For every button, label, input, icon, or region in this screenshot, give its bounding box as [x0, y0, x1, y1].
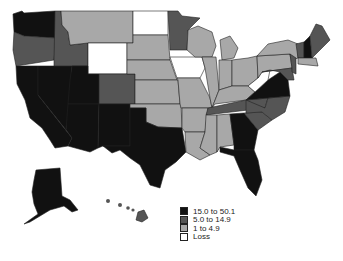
state-AR — [182, 108, 208, 132]
state-MA — [298, 58, 318, 66]
state-IN — [219, 60, 232, 90]
state-ND — [133, 11, 168, 35]
state-WI — [187, 26, 216, 57]
state-SD — [127, 35, 170, 60]
legend-item-high: 15.0 to 50.1 — [180, 207, 235, 216]
state-FL — [220, 147, 262, 196]
state-WY — [88, 43, 127, 74]
legend-swatch-loss — [180, 233, 188, 241]
state-NM — [98, 104, 130, 148]
state-HI — [136, 210, 148, 222]
legend-swatch-high — [180, 207, 188, 215]
legend-item-loss: Loss — [180, 233, 235, 242]
state-MT — [61, 11, 133, 45]
legend-item-low: 1 to 4.9 — [180, 224, 235, 233]
legend-item-mid: 5.0 to 14.9 — [180, 216, 235, 225]
legend-swatch-low — [180, 224, 188, 232]
state-HI-islet — [126, 206, 130, 210]
legend-label-loss: Loss — [193, 232, 210, 241]
state-CO — [99, 74, 135, 104]
state-HI-islet — [131, 208, 134, 211]
map-legend: 15.0 to 50.1 5.0 to 14.9 1 to 4.9 Loss — [180, 207, 235, 241]
us-choropleth-map — [0, 0, 343, 261]
state-ME — [310, 24, 330, 58]
state-MO — [177, 78, 212, 108]
state-AK — [24, 168, 78, 224]
state-AZ — [66, 104, 99, 152]
state-HI-islet — [106, 199, 110, 203]
legend-swatch-mid — [180, 216, 188, 224]
state-KS — [135, 80, 180, 104]
state-HI-islet — [118, 203, 122, 207]
state-MI — [220, 36, 238, 60]
